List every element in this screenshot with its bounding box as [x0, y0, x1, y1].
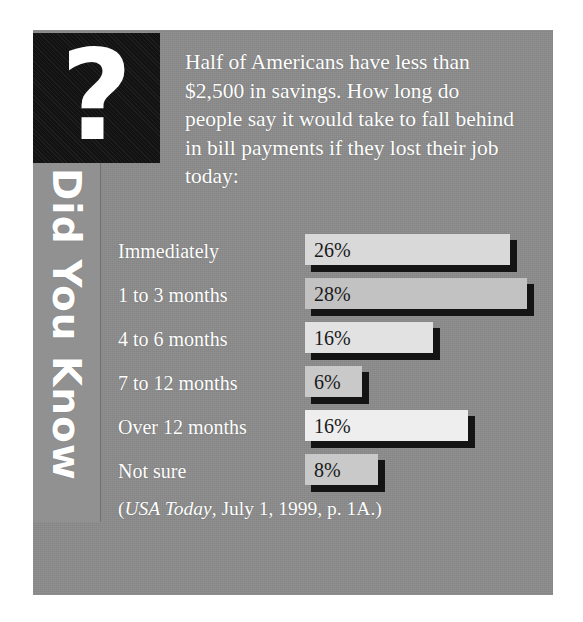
chart-bar-value: 28%	[305, 284, 351, 304]
source-rest: , July 1, 1999, p. 1A.)	[212, 498, 382, 519]
chart-row-label: Over 12 months	[118, 414, 298, 440]
intro-paragraph: Half of Americans have less than $2,500 …	[185, 48, 515, 191]
chart-bar: 16%	[305, 322, 433, 353]
chart-bar: 16%	[305, 410, 468, 441]
chart-row-label: 7 to 12 months	[118, 370, 298, 396]
question-mark-icon: ?	[33, 34, 160, 158]
chart-row: Not sure8%	[118, 454, 548, 498]
chart-bar-value: 6%	[305, 372, 341, 392]
bar-chart: Immediately26%1 to 3 months28%4 to 6 mon…	[118, 234, 548, 498]
chart-bar-wrapper: 8%	[305, 454, 378, 492]
chart-bar-wrapper: 16%	[305, 410, 468, 448]
question-mark-badge: ?	[33, 33, 160, 163]
source-citation: (USA Today, July 1, 1999, p. 1A.)	[118, 498, 382, 520]
chart-row: Immediately26%	[118, 234, 548, 278]
did-you-know-strip: Did You Know	[33, 162, 101, 522]
chart-row: 1 to 3 months28%	[118, 278, 548, 322]
chart-bar-value: 26%	[305, 240, 351, 260]
chart-bar: 28%	[305, 278, 527, 309]
chart-bar-wrapper: 26%	[305, 234, 510, 272]
chart-row-label: Immediately	[118, 238, 298, 264]
chart-row-label: Not sure	[118, 458, 298, 484]
source-publication: USA Today	[125, 498, 212, 519]
chart-row-label: 4 to 6 months	[118, 326, 298, 352]
chart-bar-wrapper: 6%	[305, 366, 362, 404]
chart-row: Over 12 months16%	[118, 410, 548, 454]
chart-bar-value: 16%	[305, 328, 351, 348]
chart-bar-wrapper: 16%	[305, 322, 433, 360]
did-you-know-label: Did You Know	[33, 162, 100, 522]
chart-bar-wrapper: 28%	[305, 278, 527, 316]
chart-bar: 26%	[305, 234, 510, 265]
chart-bar: 8%	[305, 454, 378, 485]
chart-row: 4 to 6 months16%	[118, 322, 548, 366]
chart-bar-value: 8%	[305, 460, 341, 480]
chart-row: 7 to 12 months6%	[118, 366, 548, 410]
chart-bar: 6%	[305, 366, 362, 397]
chart-bar-value: 16%	[305, 416, 351, 436]
chart-row-label: 1 to 3 months	[118, 282, 298, 308]
